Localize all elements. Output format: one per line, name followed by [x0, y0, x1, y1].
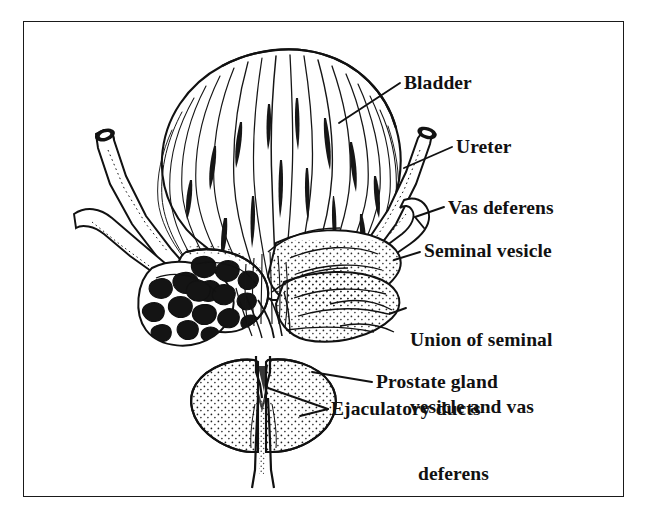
- label-seminal-vesicle: Seminal vesicle: [424, 240, 552, 262]
- label-ejaculatory-ducts: Ejaculatory ducts: [331, 398, 481, 420]
- label-union-line-1: Union of seminal: [410, 329, 552, 351]
- label-union-line-3: deferens: [410, 463, 552, 485]
- label-bladder: Bladder: [404, 72, 472, 94]
- label-union-of-seminal-vesicle-and-vas-deferens: Union of seminal vesicle and vas deferen…: [410, 285, 552, 506]
- label-ureter: Ureter: [456, 136, 511, 158]
- anatomical-figure: Bladder Ureter Vas deferens Seminal vesi…: [0, 0, 646, 506]
- label-vas-deferens: Vas deferens: [448, 197, 554, 219]
- label-prostate-gland: Prostate gland: [376, 371, 498, 393]
